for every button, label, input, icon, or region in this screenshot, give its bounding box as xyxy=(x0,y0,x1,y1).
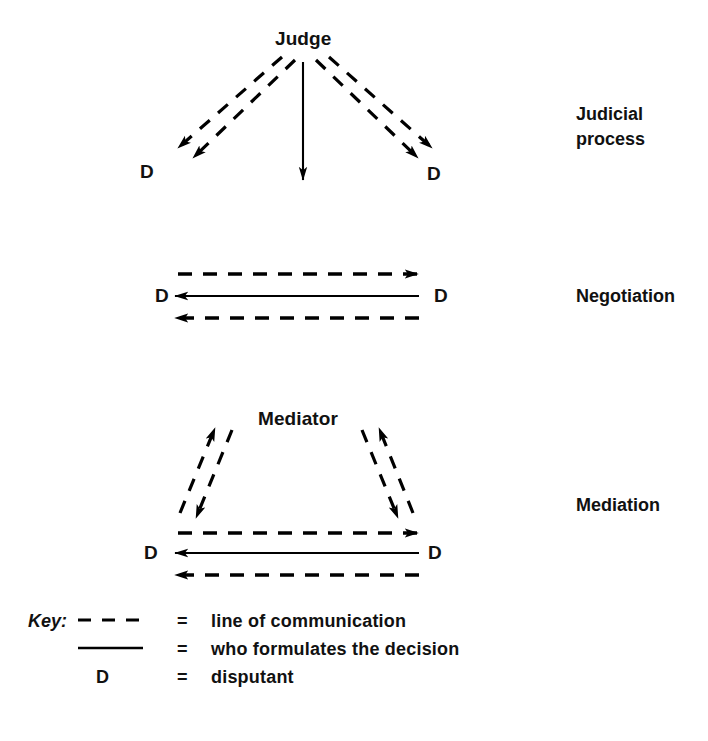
judicial-dashed-right-outer xyxy=(329,57,432,148)
key-symbol-disputant: D xyxy=(96,666,109,689)
judicial-dashed-right-inner xyxy=(316,60,418,158)
key-title: Key: xyxy=(28,610,67,633)
section-label-judicial-line2: process xyxy=(576,128,645,151)
judge-node-label: Judge xyxy=(275,27,331,51)
mediation-dashed-left-down xyxy=(196,430,232,518)
mediator-node-label: Mediator xyxy=(258,407,338,431)
key-equals-1: = xyxy=(177,638,188,661)
key-definition-decision: who formulates the decision xyxy=(211,638,459,661)
mediation-left-disputant-label: D xyxy=(144,541,158,565)
key-equals-0: = xyxy=(177,610,188,633)
section-label-negotiation: Negotiation xyxy=(576,285,675,308)
mediation-dashed-right-down xyxy=(362,430,398,518)
mediation-group xyxy=(175,428,419,575)
negotiation-right-disputant-label: D xyxy=(434,284,448,308)
negotiation-left-disputant-label: D xyxy=(155,284,169,308)
section-label-mediation: Mediation xyxy=(576,494,660,517)
diagram-root: Judge D D Judicial process D D Negotiati… xyxy=(0,0,708,741)
judicial-process-group xyxy=(178,57,432,180)
judicial-dashed-left-inner xyxy=(193,60,295,158)
key-equals-2: = xyxy=(177,666,188,689)
negotiation-group xyxy=(175,274,419,318)
mediation-dashed-left-up xyxy=(180,428,215,513)
key-definition-communication: line of communication xyxy=(211,610,406,633)
key-definition-disputant: disputant xyxy=(211,666,294,689)
judicial-dashed-left-outer xyxy=(178,57,282,148)
key-symbols-group xyxy=(78,620,143,648)
mediation-dashed-right-up xyxy=(379,428,413,513)
judicial-left-disputant-label: D xyxy=(140,160,154,184)
section-label-judicial-line1: Judicial xyxy=(576,103,643,126)
mediation-right-disputant-label: D xyxy=(428,541,442,565)
judicial-right-disputant-label: D xyxy=(427,162,441,186)
